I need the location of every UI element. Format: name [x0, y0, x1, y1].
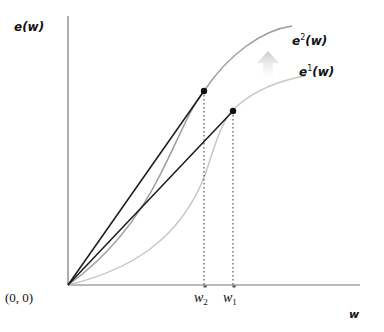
curve-e2: [68, 26, 292, 285]
curve-e1-label-arg: (w): [312, 65, 334, 79]
ray-e2: [68, 91, 204, 285]
curve-e2-label: e2(w): [292, 33, 327, 48]
curve-e2-label-arg: (w): [305, 34, 327, 48]
tick-label-w1-star: w1*: [223, 288, 236, 307]
curve-e1-label-base: e: [299, 65, 307, 79]
w2-base: w: [194, 290, 203, 305]
y-axis-label: e(w): [14, 20, 44, 34]
origin-label: (0, 0): [5, 290, 33, 306]
tangent-dot-e1: [230, 108, 236, 114]
w2-sub: 2: [203, 297, 208, 307]
tangent-dot-e2: [201, 88, 207, 94]
w2-sup: *: [203, 283, 208, 293]
shift-up-arrow-icon: [257, 51, 279, 80]
ray-e1: [68, 111, 233, 285]
w1-sup: *: [232, 283, 237, 293]
tick-label-w2-star: w2*: [194, 288, 207, 307]
curve-e1-label: e1(w): [299, 64, 334, 79]
w1-base: w: [223, 290, 232, 305]
curve-e1: [68, 76, 305, 285]
diagram-canvas: [0, 0, 384, 332]
curve-e2-label-base: e: [292, 34, 300, 48]
w1-sub: 1: [232, 297, 237, 307]
x-axis-label: w: [349, 308, 359, 321]
effort-productivity-diagram: e(w) w (0, 0) e2(w) e1(w) w2* w1*: [0, 0, 384, 332]
